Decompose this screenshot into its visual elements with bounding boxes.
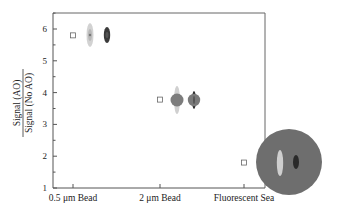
- chart-figure: 123456 0.5 μm Bead2 μm BeadFluorescent S…: [0, 0, 337, 213]
- open-square-marker: [158, 97, 163, 102]
- sea-thumbnail: [256, 129, 322, 195]
- bead-2-thumbnails: [171, 86, 201, 114]
- y-tick-label: 5: [43, 56, 48, 66]
- y-axis-ticks: 123456: [43, 13, 58, 193]
- open-square-marker: [242, 160, 247, 165]
- x-category-label: 2 μm Bead: [139, 193, 181, 203]
- data-markers: [71, 33, 247, 165]
- y-tick-label: 6: [43, 24, 48, 34]
- x-axis-ticks: 0.5 μm Bead2 μm BeadFluorescent Sea: [49, 184, 275, 203]
- y-label-numerator: Signal (AO): [12, 80, 23, 127]
- y-axis-label: Signal (AO) Signal (No AO): [12, 69, 35, 137]
- y-label-denominator: Signal (No AO): [24, 73, 35, 133]
- y-tick-label: 4: [43, 88, 48, 98]
- bead-05-thumbnails: [87, 23, 111, 47]
- x-category-label: Fluorescent Sea: [214, 193, 275, 203]
- open-square-marker: [71, 33, 76, 38]
- plot-frame: [53, 13, 265, 188]
- y-tick-label: 1: [43, 183, 48, 193]
- y-tick-label: 3: [43, 119, 48, 129]
- y-tick-label: 2: [43, 151, 48, 161]
- x-category-label: 0.5 μm Bead: [49, 193, 98, 203]
